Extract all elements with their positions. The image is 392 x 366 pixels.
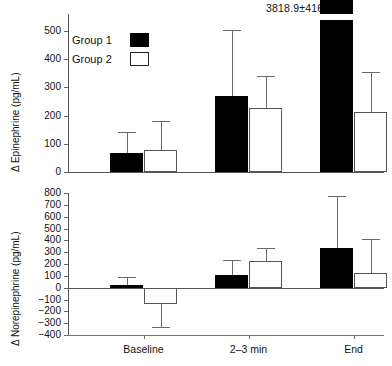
error-bar-stem [266, 248, 267, 261]
y-tick-label: 200 [44, 111, 61, 121]
legend-item-group-2: Group 2 [72, 49, 149, 68]
chart-figure: 3818.9±4162.9 Δ Epinephrine (pg/mL) 0100… [0, 0, 392, 366]
y-tick [64, 252, 68, 253]
bar-group-1-baseline [110, 285, 143, 288]
y-tick [64, 205, 68, 206]
y-tick [64, 31, 68, 32]
error-bar-cap [223, 30, 241, 31]
bar-group-1-baseline [110, 153, 143, 172]
panel-epinephrine: Δ Epinephrine (pg/mL) 0100200300400500 [0, 0, 392, 186]
panel-norepinephrine: Δ Norepinephrine (pg/mL) −400−300−200−10… [0, 186, 392, 366]
y-tick-label: 500 [44, 224, 61, 234]
y-tick [64, 172, 68, 173]
y-axis-title-norepinephrine: Δ Norepinephrine (pg/mL) [10, 231, 21, 346]
y-tick [64, 87, 68, 88]
y-tick-label: −200 [38, 306, 61, 316]
y-tick-label: 400 [44, 235, 61, 245]
y-tick [64, 217, 68, 218]
x-axis-label-2-3-min: 2–3 min [230, 343, 267, 355]
x-axis-label-end: End [344, 343, 363, 355]
y-tick-label: −100 [38, 295, 61, 305]
y-tick [64, 264, 68, 265]
bar-break-cap [320, 0, 353, 14]
y-tick-label: 600 [44, 212, 61, 222]
x-axis-zero-line-norepinephrine [68, 288, 384, 289]
y-tick-label: 200 [44, 259, 61, 269]
legend-label-group-1: Group 1 [72, 34, 130, 46]
x-axis-label-baseline: Baseline [123, 343, 163, 355]
y-axis-title-epinephrine: Δ Epinephrine (pg/mL) [10, 72, 21, 172]
bar-group-1-end [320, 20, 353, 172]
error-bar-stem [371, 72, 372, 112]
bar-group-2-2-3-min [249, 108, 282, 172]
error-bar-cap [362, 239, 380, 240]
legend: Group 1 Group 2 [72, 30, 149, 68]
x-axis-line-norepinephrine [68, 335, 384, 336]
y-tick [64, 288, 68, 289]
y-tick [64, 193, 68, 194]
bar-group-1-2-3-min [215, 96, 248, 172]
y-tick [64, 144, 68, 145]
y-tick [64, 335, 68, 336]
y-tick-label: 400 [44, 54, 61, 64]
y-tick [64, 300, 68, 301]
y-tick-label: 100 [44, 139, 61, 149]
error-bar-cap [152, 327, 170, 328]
error-bar-stem [127, 132, 128, 153]
y-tick [64, 311, 68, 312]
bar-group-1-end [320, 248, 353, 288]
error-bar-stem [161, 304, 162, 327]
error-bar-cap [152, 121, 170, 122]
y-axis-line-norepinephrine [68, 193, 69, 335]
error-bar-cap [118, 132, 136, 133]
error-bar-stem [232, 30, 233, 96]
error-bar-cap [362, 72, 380, 73]
legend-item-group-1: Group 1 [72, 30, 149, 49]
y-tick [64, 229, 68, 230]
x-tick [144, 335, 145, 339]
x-tick [249, 335, 250, 339]
y-axis-line-epinephrine [68, 14, 69, 172]
error-bar-cap [118, 277, 136, 278]
x-axis-line-epinephrine [68, 172, 384, 173]
y-tick-label: 100 [44, 271, 61, 281]
y-tick [64, 323, 68, 324]
error-bar-stem [266, 76, 267, 108]
y-tick-label: 500 [44, 26, 61, 36]
legend-label-group-2: Group 2 [72, 53, 130, 65]
y-tick-label: 0 [55, 167, 61, 177]
error-bar-stem [161, 121, 162, 150]
error-bar-cap [223, 260, 241, 261]
bar-group-2-2-3-min [249, 261, 282, 288]
error-bar-cap [257, 248, 275, 249]
y-tick-label: 300 [44, 247, 61, 257]
y-tick [64, 59, 68, 60]
y-tick [64, 276, 68, 277]
error-bar-cap [257, 76, 275, 77]
y-tick-label: 700 [44, 200, 61, 210]
bar-group-2-baseline [144, 288, 177, 305]
bar-group-1-2-3-min [215, 275, 248, 287]
y-tick [64, 116, 68, 117]
y-tick-label: 800 [44, 188, 61, 198]
legend-swatch-group-1 [130, 33, 149, 47]
error-bar-stem [232, 260, 233, 275]
error-bar-cap [328, 196, 346, 197]
error-bar-stem [127, 277, 128, 285]
y-tick [64, 240, 68, 241]
error-bar-stem [337, 196, 338, 248]
y-tick-label: 0 [55, 283, 61, 293]
legend-swatch-group-2 [130, 52, 149, 66]
bar-group-2-baseline [144, 150, 177, 172]
y-tick-label: −300 [38, 318, 61, 328]
x-tick [354, 335, 355, 339]
bar-group-2-end [354, 112, 387, 172]
y-tick-label: 300 [44, 82, 61, 92]
error-bar-stem [371, 239, 372, 273]
y-tick-label: −400 [38, 330, 61, 340]
plot-area-norepinephrine: −400−300−200−100010020030040050060070080… [68, 193, 384, 335]
bar-group-2-end [354, 273, 387, 287]
